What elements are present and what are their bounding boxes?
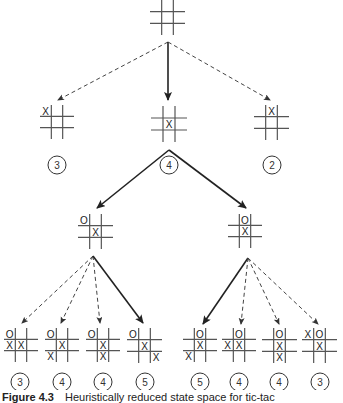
o-mark: O	[80, 215, 88, 226]
o-mark: O	[88, 329, 96, 340]
svg-text:4: 4	[100, 377, 106, 388]
x-mark: X	[185, 351, 192, 362]
state-space-tree: X3X4X2OXOXOXX3OXX4OXX4OXX5OXX5OXX4OXX4XO…	[0, 0, 343, 390]
board-l3f: OXX	[222, 328, 256, 362]
board-l3c: OXX	[86, 328, 120, 362]
x-mark: X	[47, 351, 54, 362]
svg-text:4: 4	[236, 377, 242, 388]
o-mark: O	[316, 329, 324, 340]
x-mark: X	[59, 340, 66, 351]
board-l3d: OXX	[127, 328, 162, 363]
board-l1a: X	[40, 105, 74, 139]
dashed-arrow	[58, 42, 168, 100]
x-mark: X	[141, 341, 148, 352]
x-mark: X	[42, 106, 49, 117]
heuristic-score: 4	[94, 373, 112, 390]
board-l1c: X	[254, 105, 289, 140]
heuristic-score: 3	[11, 373, 29, 390]
heuristic-score: 4	[160, 156, 178, 174]
x-mark: X	[6, 340, 13, 351]
o-mark: O	[6, 329, 14, 340]
board-l1b: X	[151, 106, 187, 142]
solid-arrow	[169, 150, 246, 208]
heuristic-score: 4	[53, 373, 71, 390]
board-l3g: OXX	[262, 328, 297, 363]
svg-text:2: 2	[269, 160, 275, 171]
o-mark: O	[276, 329, 284, 340]
edges-group	[22, 42, 318, 324]
board-l2b: OX	[228, 214, 262, 248]
x-mark: X	[224, 340, 231, 351]
o-mark: O	[235, 329, 243, 340]
x-mark: X	[276, 352, 283, 363]
svg-text:4: 4	[276, 377, 282, 388]
x-mark: X	[100, 340, 107, 351]
svg-text:5: 5	[197, 377, 203, 388]
nodes-group: X3X4X2OXOXOXX3OXX4OXX4OXX5OXX5OXX4OXX4XO…	[4, 0, 337, 390]
x-mark: X	[236, 340, 243, 351]
heuristic-score: 3	[48, 156, 66, 174]
o-mark: O	[47, 329, 55, 340]
x-mark: X	[92, 227, 99, 238]
solid-arrow	[93, 256, 143, 323]
o-mark: O	[196, 329, 204, 340]
figure-caption: Figure 4.3 Heuristically reduced state s…	[2, 391, 275, 403]
heuristic-score: 5	[136, 373, 154, 390]
dashed-arrow	[248, 258, 318, 324]
board-l3h: XOX	[302, 328, 337, 363]
heuristic-score: 4	[270, 373, 288, 390]
board-l3b: OXX	[45, 328, 79, 362]
x-mark: X	[100, 351, 107, 362]
x-mark: X	[242, 226, 249, 237]
svg-text:5: 5	[142, 377, 148, 388]
solid-arrow	[97, 150, 169, 208]
dashed-arrow	[22, 256, 93, 323]
svg-text:3: 3	[317, 377, 323, 388]
figure-caption-text: Heuristically reduced state space for ti…	[65, 391, 275, 403]
x-mark: X	[197, 340, 204, 351]
heuristic-score: 5	[191, 373, 209, 390]
dashed-arrow	[168, 42, 270, 100]
x-mark: X	[268, 106, 275, 117]
x-mark: X	[18, 340, 25, 351]
dashed-arrow	[93, 256, 100, 323]
x-mark: X	[304, 329, 311, 340]
board-l3a: OXX	[4, 328, 38, 362]
solid-arrow	[203, 258, 248, 324]
dashed-arrow	[61, 256, 93, 323]
svg-text:4: 4	[166, 160, 172, 171]
board-root	[150, 0, 185, 35]
heuristic-score: 2	[263, 156, 281, 174]
heuristic-score: 3	[311, 373, 329, 390]
board-l2a: OX	[78, 214, 113, 249]
x-mark: X	[166, 119, 173, 130]
heuristic-score: 4	[230, 373, 248, 390]
svg-text:4: 4	[59, 377, 65, 388]
o-mark: O	[129, 329, 137, 340]
x-mark: X	[153, 352, 160, 363]
svg-text:3: 3	[54, 160, 60, 171]
svg-text:3: 3	[17, 377, 23, 388]
x-mark: X	[276, 341, 283, 352]
o-mark: O	[241, 215, 249, 226]
board-l3e: OXX	[183, 328, 217, 362]
dashed-arrow	[248, 258, 279, 324]
x-mark: X	[316, 341, 323, 352]
figure-label: Figure 4.3	[2, 391, 54, 403]
